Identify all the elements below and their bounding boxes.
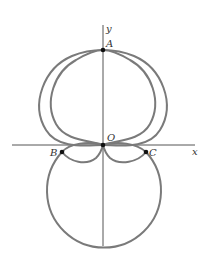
label-o: O: [107, 132, 115, 143]
point-a: [101, 48, 106, 53]
label-b: B: [49, 147, 57, 158]
label-a: A: [105, 38, 113, 49]
label-c: C: [149, 147, 157, 158]
point-b: [60, 150, 65, 155]
point-o: [101, 143, 106, 148]
y-axis-label: y: [105, 23, 112, 34]
point-c: [144, 150, 149, 155]
lower-circle: [47, 143, 161, 248]
polar-curves-diagram: y x A O B C: [0, 0, 203, 258]
x-axis-label: x: [192, 146, 198, 157]
